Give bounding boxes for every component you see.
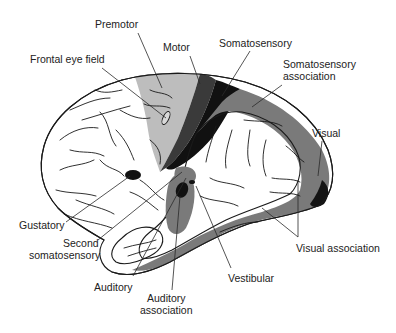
- region-gustatory: [125, 170, 141, 180]
- label-second-somatosensory-2: somatosensory: [29, 249, 101, 261]
- label-auditory: Auditory: [94, 281, 133, 293]
- label-second-somatosensory-1: Second: [63, 237, 99, 249]
- label-somatosensory: Somatosensory: [219, 37, 293, 49]
- label-somatosensory-association-2: association: [283, 70, 336, 82]
- label-premotor: Premotor: [95, 18, 139, 30]
- label-auditory-association-2: association: [140, 304, 193, 316]
- frontal-outline: [41, 80, 122, 240]
- label-somatosensory-association-1: Somatosensory: [283, 58, 357, 70]
- brain-diagram: Premotor Motor Frontal eye field Somatos…: [0, 0, 396, 333]
- label-visual: Visual: [312, 127, 340, 139]
- label-auditory-association-1: Auditory: [147, 292, 186, 304]
- label-motor: Motor: [163, 41, 190, 53]
- label-vestibular: Vestibular: [228, 272, 275, 284]
- label-visual-association: Visual association: [296, 242, 380, 254]
- label-gustatory: Gustatory: [19, 219, 65, 231]
- label-frontal-eye-field: Frontal eye field: [30, 53, 105, 65]
- region-vestibular: [189, 180, 195, 184]
- temporal-lobe: [112, 227, 163, 263]
